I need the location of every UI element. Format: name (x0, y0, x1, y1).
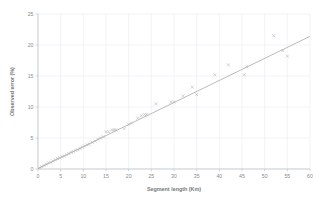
scatter-chart-figure: 051015202530354045505560 0510152025 Segm… (0, 0, 322, 199)
x-tick-label: 15 (103, 173, 109, 179)
x-tick-label: 40 (216, 173, 222, 179)
data-point-x-marker (107, 130, 110, 133)
x-tick-label: 50 (262, 173, 268, 179)
chart-canvas: 051015202530354045505560 0510152025 Segm… (0, 0, 322, 199)
x-tick-label: 35 (194, 173, 200, 179)
x-tick-labels: 051015202530354045505560 (37, 173, 313, 179)
x-axis-title: Segment length (Km) (147, 186, 201, 192)
data-point-x-marker (169, 101, 172, 104)
tick-marks (36, 14, 311, 172)
data-point-x-marker (272, 34, 275, 37)
data-point-markers (38, 34, 289, 169)
x-tick-label: 55 (284, 173, 290, 179)
data-point-x-marker (140, 114, 143, 117)
data-point-x-marker (136, 117, 139, 120)
data-point-x-marker (191, 86, 194, 89)
data-point-x-marker (154, 102, 157, 105)
y-tick-label: 10 (28, 104, 34, 110)
x-tick-label: 20 (126, 173, 132, 179)
data-point-x-marker (182, 94, 185, 97)
y-tick-label: 20 (28, 42, 34, 48)
y-axis-title: Observed error (%) (9, 67, 15, 116)
y-tick-label: 15 (28, 73, 34, 79)
y-tick-labels: 0510152025 (28, 11, 34, 172)
y-tick-label: 0 (31, 166, 34, 172)
x-gridlines (38, 14, 310, 169)
x-tick-label: 30 (171, 173, 177, 179)
x-tick-label: 45 (239, 173, 245, 179)
data-point-x-marker (227, 63, 230, 66)
x-tick-label: 0 (37, 173, 40, 179)
y-tick-label: 5 (31, 135, 34, 141)
data-point-x-marker (123, 127, 126, 130)
x-tick-label: 25 (148, 173, 154, 179)
x-tick-label: 10 (80, 173, 86, 179)
x-tick-label: 5 (59, 173, 62, 179)
y-tick-label: 25 (28, 11, 34, 17)
x-tick-label: 60 (307, 173, 313, 179)
